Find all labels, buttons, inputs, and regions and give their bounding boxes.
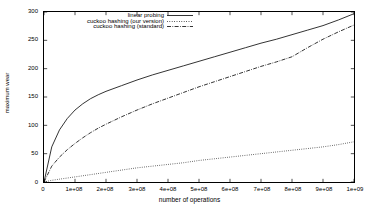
xtick-label: 6e+08 (222, 186, 239, 192)
ytick-label: 300 (28, 8, 38, 14)
ytick-label: 100 (28, 122, 38, 128)
plot-canvas (44, 12, 354, 182)
data-series-group (44, 14, 354, 182)
ytick-label: 250 (28, 36, 38, 42)
plot-area (43, 11, 355, 183)
ytick-label: 0 (35, 179, 38, 185)
legend-key-dashdot (167, 24, 193, 29)
ytick-label: 50 (31, 150, 38, 156)
y-axis-title: maximum wear (4, 48, 10, 138)
legend-key-dotted (167, 19, 193, 24)
xtick-label: 4e+08 (160, 186, 177, 192)
series-line (44, 14, 354, 182)
x-axis-title: number of operations (0, 196, 379, 203)
ytick-label: 150 (28, 93, 38, 99)
series-line (44, 142, 354, 182)
xtick-label: 1e+09 (347, 186, 364, 192)
xtick-label: 0 (41, 186, 44, 192)
chart-legend: linear probing cuckoo hashing (our versi… (60, 13, 193, 30)
series-line (44, 25, 354, 182)
xtick-label: 7e+08 (254, 186, 271, 192)
xtick-label: 5e+08 (191, 186, 208, 192)
legend-key-solid (167, 13, 193, 18)
xtick-label: 8e+08 (285, 186, 302, 192)
chart-figure: 300 250 200 150 100 50 0 0 1e+08 2e+08 3… (0, 0, 379, 212)
legend-label: cuckoo hashing (standard) (93, 24, 167, 30)
xtick-label: 1e+08 (66, 186, 83, 192)
xtick-label: 2e+08 (97, 186, 114, 192)
xtick-label: 9e+08 (316, 186, 333, 192)
axis-ticks (44, 12, 354, 182)
ytick-label: 200 (28, 65, 38, 71)
legend-item: cuckoo hashing (standard) (60, 24, 193, 30)
xtick-label: 3e+08 (129, 186, 146, 192)
